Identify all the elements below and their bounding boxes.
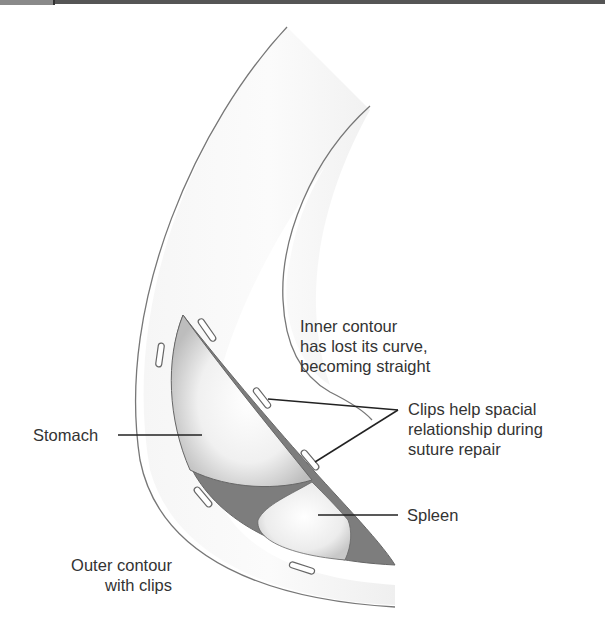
label-line: with clips [44, 575, 172, 595]
outer-contour-label: Outer contour with clips [44, 555, 172, 595]
label-line: suture repair [408, 439, 543, 459]
clips-label: Clips help spacial relationship during s… [408, 399, 543, 459]
anatomy-illustration [0, 0, 605, 627]
clips-leader-lower [315, 410, 398, 462]
label-line: Inner contour [300, 316, 430, 336]
label-line: Clips help spacial [408, 399, 543, 419]
label-line: becoming straight [300, 356, 430, 376]
label-line: has lost its curve, [300, 336, 430, 356]
label-line: relationship during [408, 419, 543, 439]
inner-contour-label: Inner contour has lost its curve, becomi… [300, 316, 430, 376]
spleen-label: Spleen [407, 505, 458, 525]
clips-leader-upper [268, 399, 398, 410]
stomach-label: Stomach [33, 425, 98, 445]
label-line: Outer contour [44, 555, 172, 575]
